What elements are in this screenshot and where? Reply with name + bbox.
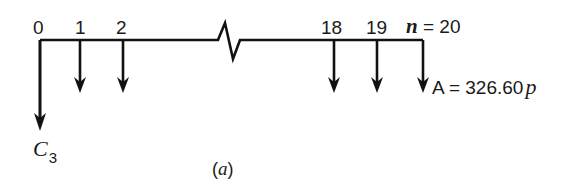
annuity-label: A = 326.60p <box>432 76 536 98</box>
annuity-unit: p <box>525 74 536 99</box>
n-variable: n <box>406 14 418 38</box>
n-value: 20 <box>439 16 460 37</box>
annuity-arrow-1 <box>74 40 86 93</box>
caption-letter: a <box>218 158 228 179</box>
c-symbol: C <box>33 136 48 161</box>
period-label-18: 18 <box>321 18 342 37</box>
period-label-2: 2 <box>116 18 127 37</box>
annuity-arrow-2 <box>117 40 129 93</box>
period-label-0: 0 <box>33 18 44 37</box>
equals-sign: = <box>423 16 434 37</box>
period-label-n: n = 20 <box>406 16 461 37</box>
annuity-value: 326.60 <box>465 77 523 98</box>
period-label-1: 1 <box>75 18 86 37</box>
cash-flow-diagram: 0 1 2 18 19 n = 20 A = 326.60p C3 (a) <box>0 0 579 180</box>
initial-cash-flow-arrow <box>34 40 46 131</box>
figure-caption: (a) <box>212 159 234 178</box>
annuity-arrow-19 <box>371 40 383 93</box>
initial-cash-flow-label: C3 <box>33 138 57 160</box>
annuity-arrow-18 <box>328 40 340 93</box>
annuity-symbol: A <box>432 77 444 98</box>
annuity-equals: = <box>449 77 460 98</box>
period-label-19: 19 <box>366 18 387 37</box>
annuity-arrow-20 <box>417 40 429 93</box>
c-subscript: 3 <box>49 149 57 166</box>
